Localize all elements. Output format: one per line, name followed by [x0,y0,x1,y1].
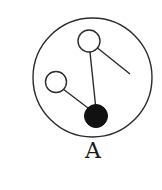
bottom-filled-ball [85,105,108,128]
left-open-ball [46,72,67,93]
upper-right-rod [98,48,131,74]
upper-open-ball [78,30,100,52]
left-to-bottom-rod [63,89,88,108]
upper-to-bottom-rod [90,52,96,105]
figure-label: A [0,139,162,163]
diagram-figure-a: A [0,0,162,190]
